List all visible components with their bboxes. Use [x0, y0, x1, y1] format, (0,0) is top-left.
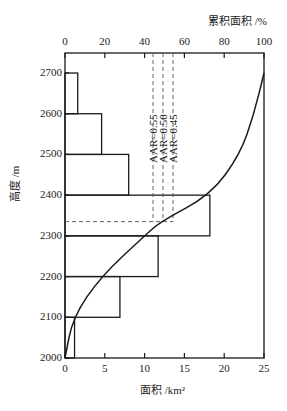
tick-label: 2300 [40, 229, 62, 241]
bar [65, 114, 102, 155]
tick-label: 80 [219, 35, 230, 47]
tick-label: 60 [179, 35, 190, 47]
bar [65, 236, 158, 277]
tick-label: 100 [256, 35, 273, 47]
tick-label: 15 [179, 362, 190, 374]
tick-label: 0 [62, 35, 68, 47]
tick-label: 2000 [40, 351, 62, 363]
tick-label: 20 [219, 362, 230, 374]
plot-frame [65, 53, 264, 358]
bar [65, 195, 210, 236]
tick-label: 20 [99, 35, 110, 47]
tick-label: 2400 [40, 188, 62, 200]
x-axis-title: 面积 /km² [140, 381, 185, 397]
tick-label: 2200 [40, 270, 62, 282]
tick-label: 2600 [40, 107, 62, 119]
bar [65, 73, 78, 114]
tick-label: 40 [139, 35, 150, 47]
tick-label: 2100 [40, 310, 62, 322]
y-axis-title: 高度 /m [6, 166, 22, 202]
tick-label: 2500 [40, 147, 62, 159]
x2-axis-title: 累积面积 /% [208, 12, 267, 28]
tick-label: 0 [62, 362, 68, 374]
tick-label: 25 [259, 362, 270, 374]
bar [65, 154, 129, 195]
tick-label: 5 [102, 362, 108, 374]
aar-label: AAR=0.45 [167, 114, 179, 163]
tick-label: 2700 [40, 66, 62, 78]
chart-canvas: AAR=0.55AAR=0.50AAR=0.45 [0, 0, 287, 411]
tick-label: 10 [139, 362, 150, 374]
bar [65, 277, 120, 318]
